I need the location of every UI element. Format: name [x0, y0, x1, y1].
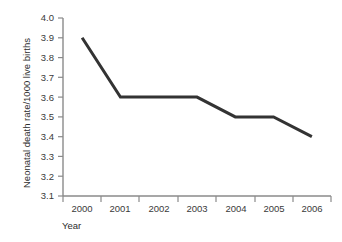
x-tick-label: 2001: [109, 203, 130, 214]
y-tick-label: 3.9: [41, 32, 54, 43]
y-tick-label: 3.4: [41, 131, 54, 142]
y-tick-label: 3.8: [41, 52, 54, 63]
x-tick-label: 2004: [225, 203, 246, 214]
chart-canvas: Neonatal death rate/1000 live births 4.0…: [0, 0, 342, 242]
y-tick-label: 3.6: [41, 92, 54, 103]
x-tick-label: 2005: [263, 203, 284, 214]
y-axis-title: Neonatal death rate/1000 live births: [21, 38, 32, 188]
y-tick-label: 3.1: [41, 190, 54, 201]
x-tick-label: 2000: [71, 203, 92, 214]
x-tick-label: 2002: [148, 203, 169, 214]
x-tick-label: 2006: [301, 203, 322, 214]
x-tick-label: 2003: [186, 203, 207, 214]
y-tick-label: 3.2: [41, 171, 54, 182]
y-tick-label: 4.0: [41, 12, 54, 23]
neonatal-death-rate-line-chart: Neonatal death rate/1000 live births 4.0…: [0, 0, 342, 242]
y-tick-label: 3.3: [41, 151, 54, 162]
x-axis-title: Year: [62, 220, 81, 231]
y-tick-label: 3.5: [41, 111, 54, 122]
y-tick-label: 3.7: [41, 72, 54, 83]
